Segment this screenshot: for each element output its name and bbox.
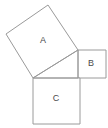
figure-canvas: A B C xyxy=(0,0,108,128)
square-a-label: A xyxy=(40,35,46,45)
square-b-label: B xyxy=(88,58,94,68)
square-c-label: C xyxy=(53,93,60,103)
pythagorean-diagram: A B C xyxy=(0,0,108,128)
